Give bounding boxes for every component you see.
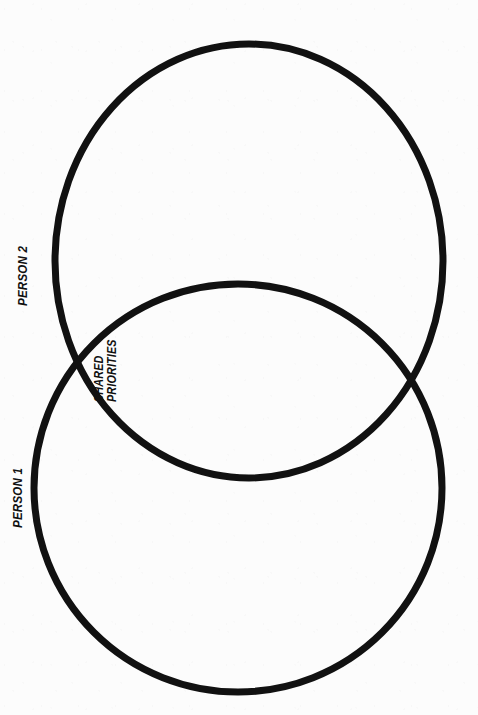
shared-priorities-line-2: PRIORITIES — [106, 339, 119, 402]
shared-priorities-line-1: SHARED — [93, 339, 106, 402]
person-2-label: PERSON 2 — [16, 246, 30, 306]
person-2-circle[interactable] — [55, 44, 443, 478]
shared-priorities-label: SHARED PRIORITIES — [93, 339, 120, 402]
worksheet-page: PERSON 2 PERSON 1 SHARED PRIORITIES — [0, 0, 478, 715]
person-1-label: PERSON 1 — [11, 468, 25, 528]
venn-diagram — [0, 0, 478, 715]
